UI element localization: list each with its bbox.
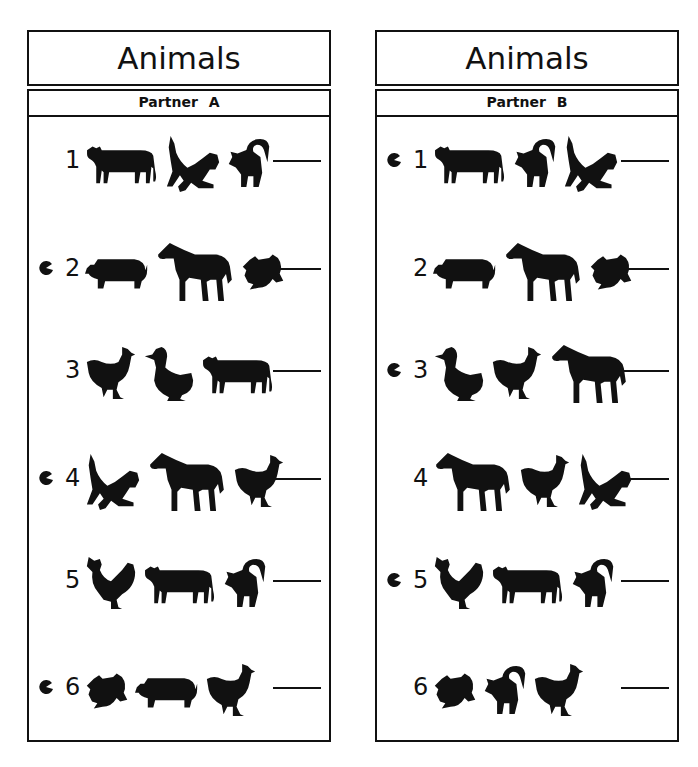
pig-icon[interactable] [85, 253, 149, 291]
question-row: 4 [27, 443, 327, 513]
duck-icon[interactable] [433, 345, 485, 403]
question-number: 1 [413, 148, 428, 172]
horse-icon[interactable] [549, 343, 629, 405]
hen-icon[interactable] [233, 453, 285, 511]
answer-blank[interactable] [273, 160, 321, 162]
cat-arched-icon[interactable] [513, 137, 557, 191]
question-row: 5 [27, 545, 327, 615]
answer-blank[interactable] [621, 160, 669, 162]
question-row: 6 [375, 652, 675, 722]
question-list [375, 115, 679, 742]
partner-header: Partner B [375, 89, 679, 117]
partner-label: Partner B [377, 94, 677, 110]
frog-icon[interactable] [433, 671, 477, 711]
answer-blank[interactable] [273, 370, 321, 372]
cat-dog-icon[interactable] [165, 134, 221, 194]
question-number: 3 [65, 358, 80, 382]
pacman-marker-icon [387, 363, 401, 377]
horse-icon[interactable] [503, 241, 583, 303]
cat-dog-icon[interactable] [577, 452, 633, 512]
pacman-marker-icon [39, 261, 53, 275]
pacman-marker-icon [387, 573, 401, 587]
horse-icon[interactable] [433, 451, 513, 513]
question-number: 6 [65, 675, 80, 699]
partner-label: Partner A [29, 94, 329, 110]
cow-icon[interactable] [201, 351, 275, 397]
question-number: 2 [413, 256, 428, 280]
frog-icon[interactable] [85, 671, 129, 711]
pacman-marker-icon [39, 471, 53, 485]
pacman-marker-icon [387, 153, 401, 167]
question-number: 5 [413, 568, 428, 592]
question-list [27, 115, 331, 742]
answer-blank[interactable] [273, 268, 321, 270]
cow-icon[interactable] [433, 141, 507, 187]
answer-blank[interactable] [273, 580, 321, 582]
answer-blank[interactable] [621, 370, 669, 372]
panel-title: Animals [377, 40, 677, 76]
frog-icon[interactable] [589, 252, 633, 292]
title-box: Animals [375, 30, 679, 86]
panel-title: Animals [29, 40, 329, 76]
hen-icon[interactable] [205, 662, 257, 720]
worksheet-panel-partner-b: Animals Partner B 123456 [375, 30, 679, 743]
hen-icon[interactable] [533, 662, 585, 720]
horse-icon[interactable] [155, 241, 235, 303]
cat-dog-icon[interactable] [563, 134, 619, 194]
pacman-marker-icon [39, 680, 53, 694]
pig-icon[interactable] [135, 672, 199, 710]
pig-icon[interactable] [433, 253, 497, 291]
question-row: 2 [375, 233, 675, 303]
cat-arched-icon[interactable] [483, 664, 527, 718]
cow-icon[interactable] [143, 561, 217, 607]
question-row: 5 [375, 545, 675, 615]
hen-icon[interactable] [491, 345, 543, 403]
question-row: 4 [375, 443, 675, 513]
partner-header: Partner A [27, 89, 331, 117]
question-row: 3 [27, 335, 327, 405]
question-number: 5 [65, 568, 80, 592]
answer-blank[interactable] [621, 580, 669, 582]
answer-blank[interactable] [273, 478, 321, 480]
question-number: 6 [413, 675, 428, 699]
answer-blank[interactable] [621, 687, 669, 689]
title-box: Animals [27, 30, 331, 86]
question-row: 6 [27, 652, 327, 722]
duck-icon[interactable] [143, 345, 195, 403]
question-number: 3 [413, 358, 428, 382]
cat-dog-icon[interactable] [85, 452, 141, 512]
cat-arched-icon[interactable] [227, 137, 271, 191]
worksheet-panel-partner-a: Animals Partner A 123456 [27, 30, 331, 743]
question-number: 2 [65, 256, 80, 280]
hen-icon[interactable] [85, 345, 137, 403]
question-row: 1 [27, 125, 327, 195]
cat-arched-icon[interactable] [223, 557, 267, 611]
rooster-icon[interactable] [85, 555, 137, 613]
cow-icon[interactable] [85, 141, 159, 187]
horse-icon[interactable] [147, 451, 227, 513]
answer-blank[interactable] [621, 478, 669, 480]
question-number: 4 [413, 466, 428, 490]
question-row: 2 [27, 233, 327, 303]
question-number: 4 [65, 466, 80, 490]
hen-icon[interactable] [519, 453, 571, 511]
cow-icon[interactable] [491, 561, 565, 607]
cat-arched-icon[interactable] [571, 557, 615, 611]
rooster-icon[interactable] [433, 555, 485, 613]
answer-blank[interactable] [621, 268, 669, 270]
answer-blank[interactable] [273, 687, 321, 689]
frog-icon[interactable] [241, 252, 285, 292]
question-row: 1 [375, 125, 675, 195]
question-row: 3 [375, 335, 675, 405]
question-number: 1 [65, 148, 80, 172]
